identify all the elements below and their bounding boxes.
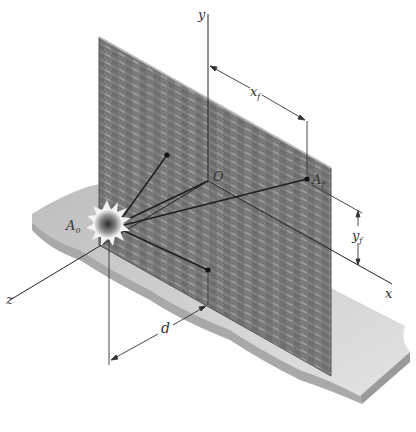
x-axis-label: x — [385, 286, 393, 301]
d-label: d — [161, 320, 170, 336]
yf-label: yf — [351, 228, 364, 245]
y-axis-label: y — [197, 7, 206, 22]
origin-label: O — [213, 169, 224, 184]
z-axis-label: z — [5, 292, 13, 307]
point-on-floor — [205, 267, 210, 272]
xf-label: xf — [250, 84, 262, 101]
point-af — [304, 176, 309, 181]
point-on-wall — [164, 152, 169, 157]
diagram-canvas: y x z O A0 Af xf yf d — [0, 0, 416, 432]
